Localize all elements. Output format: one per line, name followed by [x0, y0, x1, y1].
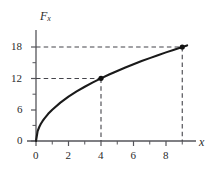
x-tick-label-6: 6 [131, 150, 137, 161]
x-tick-label-2: 2 [66, 150, 72, 161]
x-tick-label-0: 0 [33, 150, 39, 161]
x-axis-major-ticks [36, 141, 166, 146]
x-tick-label-4: 4 [98, 150, 104, 161]
y-tick-label-0: 0 [17, 135, 23, 146]
y-axis-label: Fx [40, 10, 51, 23]
y-tick-label-18: 18 [11, 41, 22, 52]
chart-canvas [0, 0, 214, 171]
force-vs-position-chart: 0 6 12 18 0 2 4 6 8 Fx x [0, 0, 214, 171]
y-tick-label-12: 12 [11, 73, 22, 84]
force-curve [36, 45, 187, 141]
data-point-marker-1 [180, 44, 185, 49]
y-axis-label-subscript: x [47, 14, 51, 23]
data-point-marker-0 [98, 76, 103, 81]
x-tick-label-8: 8 [163, 150, 169, 161]
y-tick-label-6: 6 [17, 104, 23, 115]
x-axis-label: x [199, 136, 204, 148]
